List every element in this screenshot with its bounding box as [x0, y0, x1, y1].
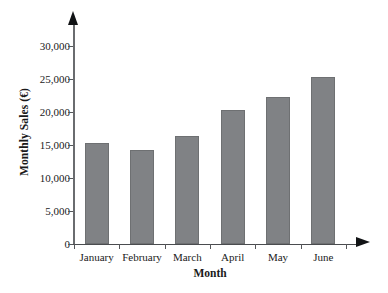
x-axis-tick-label: March [165, 250, 210, 264]
y-axis-tick-label: 20,000 [26, 107, 70, 118]
x-axis-arrow-icon [356, 237, 370, 247]
x-axis-tick-mark [255, 244, 256, 249]
x-axis-tick-label: May [255, 250, 300, 264]
bar-chart: Monthly Sales (€) 05,00010,00015,00020,0… [0, 0, 388, 293]
x-axis-tick-mark [210, 244, 211, 249]
y-axis-tick-label: 15,000 [26, 140, 70, 151]
x-axis-tick-mark [119, 244, 120, 249]
x-axis-tick-mark [74, 244, 75, 249]
bar-slot [255, 46, 300, 244]
x-axis-tick-mark [165, 244, 166, 249]
y-axis-arrow-icon [68, 11, 78, 25]
x-axis-tick-mark [301, 244, 302, 249]
bar-slot [301, 46, 346, 244]
bar-march [175, 136, 199, 244]
bar-slot [74, 46, 119, 244]
y-axis-tick-label: 0 [26, 239, 70, 250]
bar-february [130, 150, 154, 244]
x-axis-tick-mark [346, 244, 347, 249]
y-axis-tick-label: 10,000 [26, 173, 70, 184]
y-axis-tick-label: 5,000 [26, 206, 70, 217]
x-axis-tick-label: January [74, 250, 119, 264]
bar-may [266, 97, 290, 244]
bar-slot [210, 46, 255, 244]
bar-slot [165, 46, 210, 244]
x-axis-title: Month [74, 266, 346, 280]
x-axis-tick-label: February [119, 250, 164, 264]
plot-area [74, 46, 346, 244]
y-axis-tick-labels: 05,00010,00015,00020,00025,00030,000 [26, 0, 70, 293]
x-axis-tick-labels: JanuaryFebruaryMarchAprilMayJune [74, 250, 346, 266]
bar-january [85, 143, 109, 244]
bar-slot [119, 46, 164, 244]
y-axis-tick-label: 30,000 [26, 41, 70, 52]
x-axis-tick-label: June [301, 250, 346, 264]
y-axis-tick-label: 25,000 [26, 74, 70, 85]
bar-june [311, 77, 335, 244]
x-axis-tick-label: April [210, 250, 255, 264]
bar-april [221, 110, 245, 244]
